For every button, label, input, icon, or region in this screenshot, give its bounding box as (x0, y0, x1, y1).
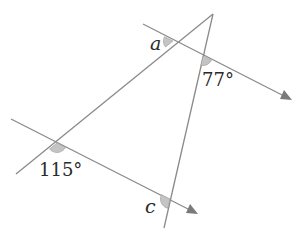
left-line (16, 14, 213, 174)
angle-arc-c (160, 195, 170, 209)
label-angle-c: c (145, 195, 156, 217)
angle-arc-77 (201, 56, 212, 66)
label-angle-a: a (150, 32, 161, 54)
label-angle-115: 115° (39, 159, 82, 180)
upper-arrowhead-icon (280, 90, 292, 100)
label-angle-77: 77° (202, 69, 234, 90)
angle-diagram: a 77° 115° c (0, 0, 302, 244)
diagram-canvas: a 77° 115° c (0, 0, 302, 244)
lower-arrowhead-icon (186, 204, 198, 214)
right-line (164, 14, 213, 228)
